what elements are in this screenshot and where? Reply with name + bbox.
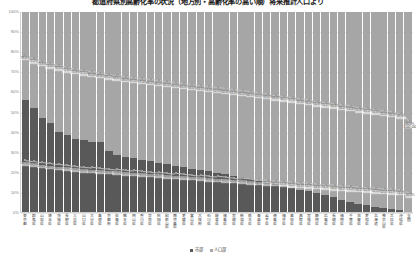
bar-segment-dark: [346, 202, 353, 212]
bar-column[interactable]: [321, 12, 328, 212]
x-axis-tick-label: 鹿児島県: [173, 214, 177, 229]
x-axis-tick-label: 茨城県: [56, 214, 60, 225]
legend-swatch: [210, 249, 213, 252]
x-axis-tick: 和歌山県: [163, 214, 170, 246]
x-axis-tick: 奈良県: [146, 214, 153, 246]
x-axis-tick: 熊本県: [121, 214, 128, 246]
x-axis-tick-label: 富山県: [190, 214, 194, 225]
x-axis-tick: 栃木県: [246, 214, 253, 246]
bar-column[interactable]: [130, 12, 137, 212]
x-axis-tick-label: 山口県: [81, 214, 85, 225]
x-axis-tick: 鹿児島県: [171, 214, 178, 246]
bar-column[interactable]: [47, 12, 54, 212]
x-axis-tick: 佐賀県: [113, 214, 120, 246]
x-axis-tick: 山梨県: [38, 214, 45, 246]
x-axis-tick-label: 香川県: [139, 214, 143, 225]
bar-column[interactable]: [346, 12, 353, 212]
x-axis-tick: 兵庫県: [388, 214, 395, 246]
x-axis-tick-label: 群馬県: [31, 214, 35, 225]
x-axis-tick-label: 北海道: [373, 214, 377, 225]
legend-label: 市部: [195, 248, 203, 252]
x-axis-tick: 秋田県: [154, 214, 161, 246]
bar-segment-dark: [64, 135, 71, 212]
x-axis-tick-label: 広島県: [323, 214, 327, 225]
legend-item[interactable]: 市部: [190, 248, 203, 252]
x-axis-tick-label: 和歌山県: [165, 214, 169, 229]
plot-area: 100%90%80%70%60%50%40%30%20%10%0% 78.8%7…: [20, 12, 413, 213]
x-axis-tick-label: 千葉県: [348, 214, 352, 225]
x-axis-tick: 沖縄県: [396, 214, 403, 246]
y-axis-tick-label: 60%: [11, 90, 19, 94]
x-axis-tick: 神奈川県: [380, 214, 387, 246]
bar-segment-light: [172, 12, 179, 166]
x-axis-tick: 全国: [405, 214, 412, 246]
x-axis-tick-label: 京都府: [106, 214, 110, 225]
bar-segment-dark: [379, 208, 386, 212]
bar-column[interactable]: [205, 12, 212, 212]
x-axis-tick-label: 栃木県: [248, 214, 252, 225]
bar-column[interactable]: [30, 12, 37, 212]
x-axis-tick-label: 大分県: [89, 214, 93, 225]
bar-column[interactable]: [22, 12, 29, 212]
bar-segment-light: [113, 12, 120, 155]
bar-column[interactable]: [113, 12, 120, 212]
bar-column[interactable]: [404, 12, 411, 212]
x-axis-tick: 大分県: [88, 214, 95, 246]
y-axis-tick-label: 70%: [11, 70, 19, 74]
bar-column[interactable]: [147, 12, 154, 212]
bar-segment-dark: [97, 142, 104, 212]
bar-column[interactable]: [197, 12, 204, 212]
x-axis-tick: 新潟県: [238, 214, 245, 246]
x-axis-tick: 群馬県: [29, 214, 36, 246]
bar-segment-dark: [330, 197, 337, 212]
bar-column[interactable]: [88, 12, 95, 212]
x-axis-tick-label: 福岡県: [340, 214, 344, 225]
bar-segment-dark: [280, 186, 287, 212]
bar-column[interactable]: [188, 12, 195, 212]
bar-column[interactable]: [180, 12, 187, 212]
x-axis-tick-label: 神奈川県: [381, 214, 385, 229]
bar-segment-dark: [105, 151, 112, 212]
bar-column[interactable]: [72, 12, 79, 212]
y-axis-tick-label: 80%: [11, 50, 19, 54]
bar-column[interactable]: [330, 12, 337, 212]
y-axis-tick-label: 20%: [11, 171, 19, 175]
bar-segment-dark: [80, 140, 87, 212]
x-axis-tick-label: 徳島県: [273, 214, 277, 225]
legend-item[interactable]: 人口部: [210, 248, 227, 252]
x-axis-tick-label: 三重県: [73, 214, 77, 225]
x-axis-tick: 福島県: [221, 214, 228, 246]
x-axis-tick-label: 高知県: [290, 214, 294, 225]
chart-legend: 市部人口部: [0, 248, 416, 252]
bar-segment-dark: [271, 184, 278, 212]
bar-column[interactable]: [155, 12, 162, 212]
bar-segment-light: [105, 12, 112, 151]
bar-segment-dark: [338, 200, 345, 212]
x-axis-tick: 高知県: [288, 214, 295, 246]
x-axis-tick-label: 福島県: [223, 214, 227, 225]
y-axis-tick-label: 90%: [11, 30, 19, 34]
x-axis-tick: 千葉県: [346, 214, 353, 246]
x-axis-tick-label: 青森県: [256, 214, 260, 225]
bar-segment-light: [138, 12, 145, 160]
bar-segment-light: [180, 12, 187, 167]
bar-column[interactable]: [105, 12, 112, 212]
x-axis-tick: 徳島県: [271, 214, 278, 246]
bar-column[interactable]: [97, 12, 104, 212]
bar-column[interactable]: [55, 12, 62, 212]
lower-line-value-label: 10.5%: [405, 194, 415, 198]
x-axis-tick: 長野県: [63, 214, 70, 246]
x-axis-tick-label: 岩手県: [265, 214, 269, 225]
bar-segment-light: [147, 12, 154, 161]
bar-column[interactable]: [122, 12, 129, 212]
x-axis-tick: 鳥取県: [296, 214, 303, 246]
bar-segment-dark: [113, 155, 120, 212]
bar-segment-light: [163, 12, 170, 164]
bar-column[interactable]: [163, 12, 170, 212]
bar-column[interactable]: [80, 12, 87, 212]
bar-column[interactable]: [338, 12, 345, 212]
bar-column[interactable]: [138, 12, 145, 212]
bar-column[interactable]: [64, 12, 71, 212]
bar-column[interactable]: [172, 12, 179, 212]
bar-column[interactable]: [39, 12, 46, 212]
